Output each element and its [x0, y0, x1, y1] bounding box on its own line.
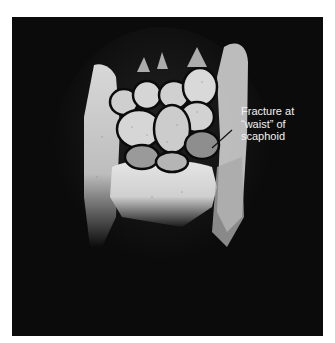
annotation-line-1: Fracture at: [241, 105, 294, 118]
fracture-annotation-label: Fracture at “waist” of scaphoid: [241, 105, 294, 143]
wrist-mri-image: [12, 17, 323, 336]
mri-image-frame: Fracture at “waist” of scaphoid: [12, 17, 323, 336]
annotation-line-3: scaphoid: [241, 130, 294, 143]
annotation-line-2: “waist” of: [241, 118, 294, 131]
